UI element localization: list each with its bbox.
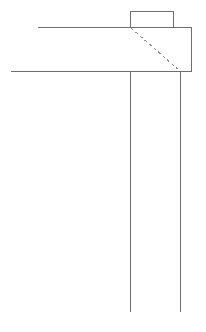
line-drawing-svg: [0, 0, 206, 332]
drawing-canvas: [0, 0, 206, 332]
canvas-background: [0, 0, 206, 332]
